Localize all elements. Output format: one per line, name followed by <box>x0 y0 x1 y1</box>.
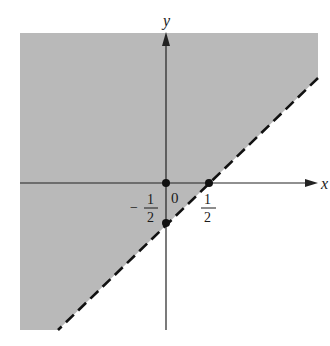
y-neg-half-sign: − <box>130 200 138 215</box>
y-axis-label: y <box>161 12 171 30</box>
y-neg-half-numerator: 1 <box>147 192 154 207</box>
x-axis-arrow-icon <box>305 179 318 187</box>
origin-point <box>162 179 170 187</box>
y-intercept-point <box>162 219 170 227</box>
x-axis-label: x <box>320 175 328 192</box>
x-half-denominator: 2 <box>204 210 211 225</box>
inequality-graph: y x 0 1 2 − 1 2 <box>0 0 330 346</box>
x-half-numerator: 1 <box>204 192 211 207</box>
y-neg-half-denominator: 2 <box>147 210 154 225</box>
origin-label: 0 <box>171 190 179 206</box>
x-intercept-point <box>205 179 213 187</box>
